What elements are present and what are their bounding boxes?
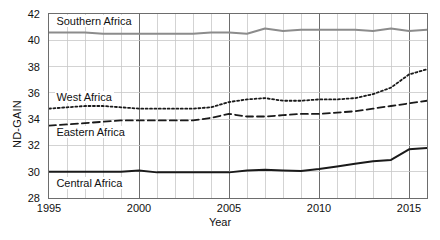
y-tick-label: 34 (28, 114, 40, 125)
series-label-eastern-africa: Eastern Africa (55, 126, 126, 138)
y-tick-label: 32 (28, 140, 40, 151)
series-line-eastern-africa (49, 101, 427, 126)
x-tick-label: 1995 (37, 202, 61, 214)
x-tick-label: 2010 (307, 202, 331, 214)
series-label-central-africa: Central Africa (55, 177, 124, 189)
y-tick-label: 30 (28, 166, 40, 177)
series-canvas (49, 14, 427, 198)
series-label-southern-africa: Southern Africa (55, 15, 133, 27)
y-tick-label: 36 (28, 87, 40, 98)
y-tick-label: 42 (28, 9, 40, 20)
y-tick-label: 38 (28, 61, 40, 72)
nd-gain-line-chart: ND-GAIN 2830323436384042 Southern Africa… (0, 0, 440, 240)
x-tick-label: 2000 (127, 202, 151, 214)
y-tick-label: 40 (28, 35, 40, 46)
plot-area: Southern AfricaWest AfricaEastern Africa… (48, 13, 428, 199)
series-line-southern-africa (49, 28, 427, 33)
x-tick-label: 2015 (397, 202, 421, 214)
series-line-central-africa (49, 148, 427, 172)
x-tick-label: 2005 (217, 202, 241, 214)
x-axis-label: Year (0, 216, 440, 228)
series-label-west-africa: West Africa (55, 91, 113, 103)
